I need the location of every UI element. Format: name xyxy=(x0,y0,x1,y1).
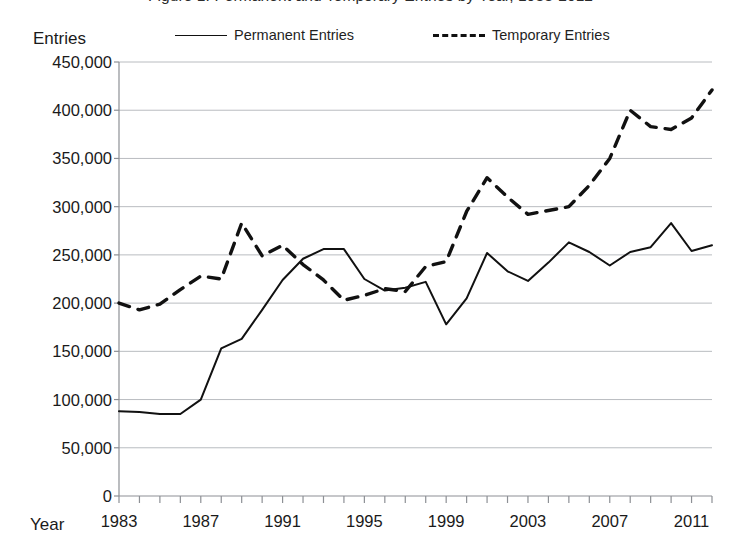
x-axis-tick-label: 1991 xyxy=(248,512,318,531)
x-axis-ticks xyxy=(119,496,712,503)
series-line-temporary-entries xyxy=(119,90,712,310)
data-series-layer xyxy=(119,90,712,414)
x-axis-tick-label: 1983 xyxy=(84,512,154,531)
chart-figure: Figure 1. Permanent and Temporary Entrie… xyxy=(0,0,741,560)
plot-area xyxy=(0,0,741,560)
y-axis-ticks xyxy=(114,62,119,496)
x-axis-tick-label: 2007 xyxy=(575,512,645,531)
x-axis-tick-label: 2011 xyxy=(657,512,727,531)
x-axis-tick-label: 2003 xyxy=(493,512,563,531)
series-line-permanent-entries xyxy=(119,223,712,414)
x-axis-tick-label: 1987 xyxy=(166,512,236,531)
x-axis-tick-label: 1999 xyxy=(411,512,481,531)
x-axis-tick-label: 1995 xyxy=(329,512,399,531)
gridlines xyxy=(119,62,712,448)
